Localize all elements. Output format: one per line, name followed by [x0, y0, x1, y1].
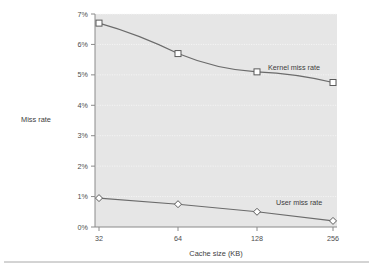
- y-tick-label-6: 6%: [78, 40, 89, 49]
- x-axis-title: Cache size (KB): [189, 249, 242, 258]
- y-tick-label-4: 4%: [78, 101, 89, 110]
- y-tick-label-7: 7%: [78, 10, 89, 19]
- y-tick-label-0: 0%: [78, 223, 89, 232]
- x-tick-label-64: 64: [174, 234, 182, 243]
- kernel-marker-128: [254, 69, 260, 75]
- kernel-marker-64: [175, 51, 181, 57]
- y-tick-label-5: 5%: [78, 70, 89, 79]
- kernel-marker-256: [330, 80, 336, 86]
- user-series-label: User miss rate: [276, 198, 322, 207]
- x-tick-label-256: 256: [327, 234, 339, 243]
- kernel-marker-32: [96, 20, 102, 26]
- plot-area-background: [95, 14, 337, 227]
- y-tick-label-2: 2%: [78, 162, 89, 171]
- y-tick-label-1: 1%: [78, 192, 89, 201]
- y-axis-title: Miss rate: [21, 115, 51, 124]
- y-tick-label-3: 3%: [78, 131, 89, 140]
- x-tick-label-128: 128: [251, 234, 263, 243]
- miss-rate-line-chart: 7% 6% 5% 4% 3% 2% 1% 0% 32 64 128 256 Ca…: [0, 0, 373, 270]
- chart-figure: 7% 6% 5% 4% 3% 2% 1% 0% 32 64 128 256 Ca…: [0, 0, 373, 270]
- kernel-series-label: Kernel miss rate: [268, 63, 320, 72]
- x-tick-label-32: 32: [95, 234, 103, 243]
